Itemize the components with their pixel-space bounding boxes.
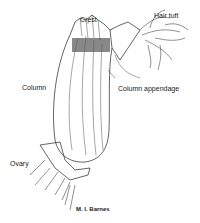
label-ovary: Ovary xyxy=(10,160,29,167)
organism-drawing xyxy=(0,0,200,223)
illustration: Crest Hair tuft Column Column appendage … xyxy=(0,0,200,223)
label-column: Column xyxy=(22,84,46,91)
label-column-appendage: Column appendage xyxy=(118,85,179,92)
label-hair-tuft: Hair tuft xyxy=(154,12,179,19)
label-crest: Crest xyxy=(80,16,97,23)
artist-credit: M. I. Barnes xyxy=(76,206,110,212)
